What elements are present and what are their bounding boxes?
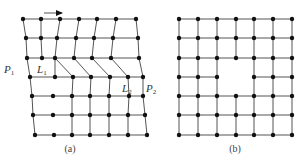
- atom-node: [39, 36, 43, 40]
- atom-node: [252, 36, 256, 40]
- atom-node: [72, 56, 76, 60]
- atom-node: [215, 113, 219, 117]
- atom-node: [290, 75, 294, 79]
- panel-a-sheared-lattice: P1L1L2P2 (a): [3, 13, 157, 155]
- atom-node: [33, 133, 37, 137]
- atom-node: [215, 56, 219, 60]
- panel-b-vacancy-lattice: (b): [177, 17, 294, 155]
- bond-line: [139, 58, 143, 77]
- atom-node: [143, 113, 147, 117]
- atom-node: [196, 133, 200, 137]
- atom-node: [134, 17, 138, 21]
- atom-node: [271, 113, 275, 117]
- atom-node: [177, 17, 181, 21]
- atom-node: [70, 133, 74, 137]
- atom-node: [74, 36, 78, 40]
- atom-node: [40, 56, 44, 60]
- atom-node: [215, 75, 219, 79]
- atom-node: [234, 56, 238, 60]
- atom-node: [145, 133, 149, 137]
- atom-node: [177, 113, 181, 117]
- bond-line: [32, 96, 33, 115]
- atom-node: [90, 56, 94, 60]
- atom-node: [252, 56, 256, 60]
- atom-node: [88, 113, 92, 117]
- atom-node: [177, 133, 181, 137]
- atom-node: [252, 75, 256, 79]
- atom-node: [53, 75, 57, 79]
- atom-node: [196, 75, 200, 79]
- atom-node: [88, 94, 92, 98]
- l1-label: L1: [36, 63, 47, 77]
- atom-node: [70, 94, 74, 98]
- atom-node: [111, 36, 115, 40]
- atom-node: [21, 17, 25, 21]
- atom-node: [252, 17, 256, 21]
- atom-node: [271, 17, 275, 21]
- atom-node: [95, 17, 99, 21]
- atom-node: [51, 113, 55, 117]
- atom-node: [39, 17, 43, 21]
- bond-line: [41, 38, 42, 58]
- atom-node: [109, 56, 113, 60]
- bond-line: [92, 38, 94, 58]
- bond-line: [27, 58, 30, 77]
- atom-node: [137, 56, 141, 60]
- l2-label: L2: [121, 82, 132, 96]
- bond-line: [145, 115, 147, 135]
- p2-label: P2: [145, 82, 157, 96]
- atom-node: [196, 113, 200, 117]
- atom-node: [25, 56, 29, 60]
- atom-node: [24, 36, 28, 40]
- bond-line: [72, 77, 73, 96]
- atom-node: [31, 113, 35, 117]
- bond-line: [111, 38, 113, 58]
- bond-line: [109, 77, 110, 96]
- atom-node: [55, 36, 59, 40]
- atom-node: [70, 113, 74, 117]
- atom-node: [234, 94, 238, 98]
- atom-node: [126, 133, 130, 137]
- atom-node: [30, 94, 34, 98]
- atom-node: [215, 36, 219, 40]
- bond-line: [94, 19, 97, 38]
- bond-line: [113, 19, 116, 38]
- atom-node: [136, 36, 140, 40]
- atom-node: [290, 113, 294, 117]
- atom-node: [234, 17, 238, 21]
- atom-node: [290, 133, 294, 137]
- atom-node: [77, 17, 81, 21]
- bond-line: [30, 77, 32, 96]
- bond-line: [26, 38, 27, 58]
- atom-node: [271, 36, 275, 40]
- atom-node: [234, 113, 238, 117]
- atom-node: [53, 56, 57, 60]
- bond-line: [55, 38, 57, 58]
- panel-a-labels: P1L1L2P2: [3, 63, 157, 96]
- atom-node: [89, 75, 93, 79]
- atom-node: [196, 94, 200, 98]
- bond-line: [143, 96, 145, 115]
- bond-line: [92, 58, 110, 77]
- bond-line: [111, 58, 128, 77]
- atom-node: [88, 133, 92, 137]
- atom-node: [215, 94, 219, 98]
- panel-a-caption: (a): [64, 143, 75, 155]
- atom-node: [196, 17, 200, 21]
- atom-node: [196, 36, 200, 40]
- atom-node: [71, 75, 75, 79]
- bond-line: [74, 38, 76, 58]
- bond-line: [57, 19, 60, 38]
- atom-node: [107, 94, 111, 98]
- atom-node: [177, 36, 181, 40]
- atom-node: [107, 133, 111, 137]
- atom-node: [126, 113, 130, 117]
- atom-node: [114, 17, 118, 21]
- atom-node: [290, 56, 294, 60]
- atom-node: [271, 133, 275, 137]
- bond-line: [128, 96, 129, 115]
- atom-node: [215, 133, 219, 137]
- atom-node: [234, 133, 238, 137]
- p1-label: P1: [3, 63, 15, 77]
- panel-b-caption: (b): [229, 143, 241, 155]
